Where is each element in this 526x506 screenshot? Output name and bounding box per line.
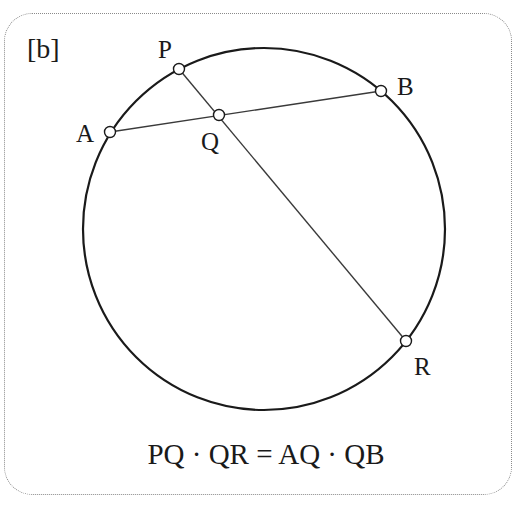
point-p-label: P	[158, 36, 172, 63]
point-r-marker	[401, 336, 412, 347]
point-b-marker	[376, 86, 387, 97]
point-q-marker	[214, 110, 225, 121]
circle	[83, 48, 445, 410]
point-a-label: A	[76, 120, 94, 147]
point-b-label: B	[397, 73, 414, 100]
intersecting-chords-diagram: [b] P A Q B R PQ · QR = AQ · QB	[0, 0, 526, 506]
point-r-label: R	[414, 353, 431, 380]
panel-label: [b]	[27, 33, 60, 64]
chord-pr	[179, 69, 406, 341]
equation-caption: PQ · QR = AQ · QB	[147, 438, 384, 470]
point-p-marker	[174, 64, 185, 75]
point-q-label: Q	[201, 128, 219, 155]
point-a-marker	[105, 127, 116, 138]
chord-ab	[110, 91, 381, 132]
